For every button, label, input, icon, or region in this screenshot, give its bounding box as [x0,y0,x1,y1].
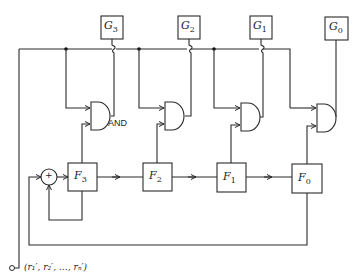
label-g3: G3 [104,19,118,34]
output-label: (r₁′, r₂′, …, rₙ′) [24,262,87,272]
top-bus-line [15,49,290,268]
label-f1: F1 [223,170,236,185]
g3-connection [111,39,115,116]
g2-connection [185,39,192,116]
g1-connection [260,39,264,117]
f1-to-gate [231,125,240,163]
f3-to-gate [82,124,90,163]
f2-to-gate [157,124,164,163]
label-g2: G2 [181,19,195,34]
label-f3: F3 [74,169,87,184]
and-gate-2 [165,102,184,130]
and-gate-0 [317,104,336,132]
label-g1: G1 [253,19,267,34]
f0-to-gate [307,126,316,164]
tap-wire-3 [66,49,90,108]
tap-wire-1 [214,49,240,108]
label-f2: F2 [149,169,162,184]
and-gate-1 [241,103,260,131]
tap-wire-2 [139,49,164,108]
label-g0: G0 [329,20,343,35]
label-f0: F0 [298,171,311,186]
and-gate-label: AND [108,118,127,128]
output-terminal [10,266,15,271]
diagram-canvas [0,0,359,277]
adder-plus-symbol: + [45,170,53,180]
